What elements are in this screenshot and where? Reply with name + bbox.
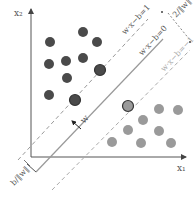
dark-class-point xyxy=(61,56,71,66)
negative-margin-line xyxy=(52,50,190,190)
dark-class-point xyxy=(62,73,72,83)
light-class-point xyxy=(173,105,183,115)
normal-vector-label: w xyxy=(78,113,91,126)
decision-boundary-line xyxy=(36,39,163,172)
margin-bracket-end-top xyxy=(161,11,163,13)
dark-class-point xyxy=(45,37,55,47)
light-class-point xyxy=(166,138,176,148)
margin-width-label: 2/‖w‖ xyxy=(171,0,193,19)
light-class-point xyxy=(123,125,133,135)
normal-vector-arrow xyxy=(72,121,81,129)
dark-class-point xyxy=(44,59,54,69)
x-axis-label: x₁ xyxy=(177,163,186,173)
light-class-points xyxy=(107,101,183,149)
y-axis-label: x₂ xyxy=(14,8,23,18)
dark-class-points xyxy=(44,27,106,106)
dark-class-point xyxy=(78,53,88,63)
light-class-point xyxy=(136,138,146,148)
dark-class-point xyxy=(78,27,88,37)
decision-boundary-label: w·x−b=0 xyxy=(137,24,169,58)
support-vector-point xyxy=(70,95,81,106)
negative-margin-label: w·x−b=−1 xyxy=(159,35,196,73)
light-class-point xyxy=(154,126,164,136)
dark-class-point xyxy=(92,37,102,47)
dark-class-point xyxy=(44,90,54,100)
support-vector-point xyxy=(95,65,106,76)
support-vector-point xyxy=(123,101,134,112)
positive-margin-line xyxy=(18,19,148,160)
offset-tick xyxy=(24,160,30,166)
svm-diagram: x₂ x₁ w·x−b=1 w·x−b=0 w·x−b=−1 2/‖w‖ b/‖… xyxy=(0,0,196,199)
diagram-canvas: x₂ x₁ w·x−b=1 w·x−b=0 w·x−b=−1 2/‖w‖ b/‖… xyxy=(0,0,196,199)
light-class-point xyxy=(107,137,117,147)
light-class-point xyxy=(154,104,164,114)
light-class-point xyxy=(138,115,148,125)
offset-label: b/‖w‖ xyxy=(9,165,31,188)
